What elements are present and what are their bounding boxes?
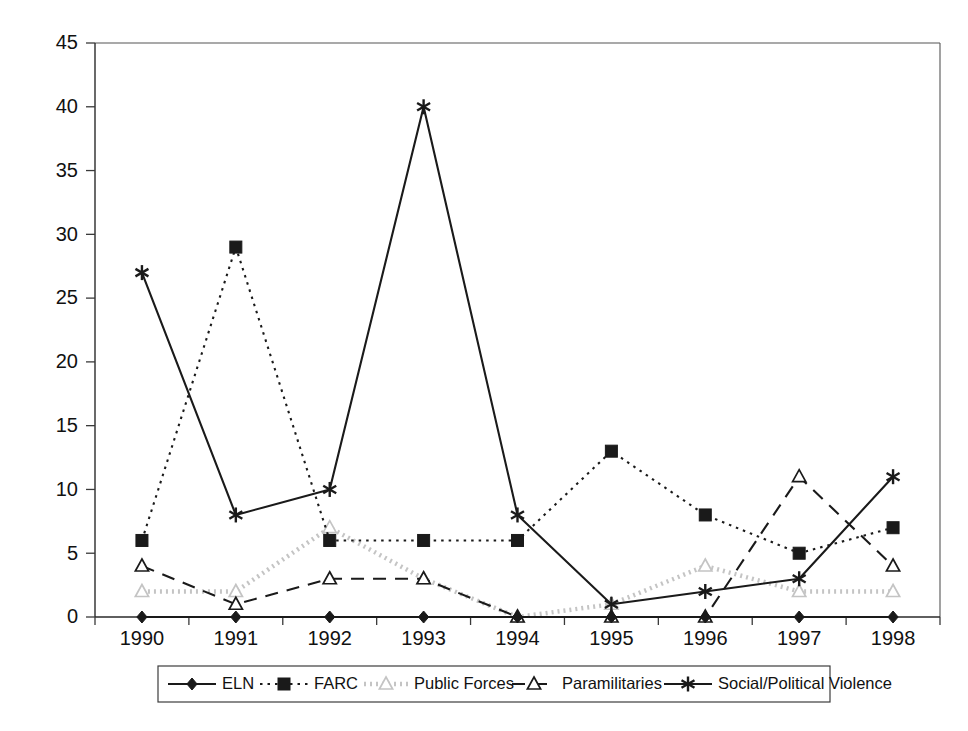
legend-item-social-political-violence[interactable]: Social/Political Violence bbox=[664, 674, 892, 692]
data-point-marker bbox=[417, 99, 430, 114]
data-point-marker bbox=[793, 470, 806, 482]
data-point-marker bbox=[323, 482, 336, 497]
data-point-marker bbox=[418, 534, 430, 546]
legend-marker-icon bbox=[187, 678, 197, 690]
legend-item-farc[interactable]: FARC bbox=[260, 674, 358, 692]
legend-label: FARC bbox=[314, 674, 358, 692]
data-point-marker bbox=[887, 522, 899, 534]
legend-marker-icon bbox=[278, 678, 290, 690]
x-tick-label: 1998 bbox=[871, 627, 916, 649]
data-point-marker bbox=[512, 534, 524, 546]
y-tick-label: 45 bbox=[56, 31, 78, 53]
data-point-marker bbox=[324, 534, 336, 546]
y-tick-label: 40 bbox=[56, 95, 78, 117]
series-eln bbox=[137, 611, 898, 623]
data-point-marker bbox=[793, 547, 805, 559]
x-tick-label: 1996 bbox=[683, 627, 728, 649]
data-point-marker bbox=[325, 611, 335, 623]
y-tick-label: 10 bbox=[56, 478, 78, 500]
data-series-group bbox=[135, 99, 899, 623]
data-point-marker bbox=[699, 509, 711, 521]
legend-item-public-forces[interactable]: Public Forces bbox=[364, 674, 514, 692]
y-tick-label: 30 bbox=[56, 223, 78, 245]
data-point-marker bbox=[886, 559, 899, 571]
y-tick-label: 15 bbox=[56, 414, 78, 436]
series-line bbox=[142, 107, 893, 604]
y-tick-label: 0 bbox=[67, 605, 78, 627]
x-tick-label: 1997 bbox=[777, 627, 822, 649]
data-point-marker bbox=[230, 241, 242, 253]
x-tick-label: 1994 bbox=[495, 627, 540, 649]
data-point-marker bbox=[229, 507, 242, 522]
y-tick-label: 20 bbox=[56, 350, 78, 372]
legend-label: Social/Political Violence bbox=[718, 674, 892, 692]
line-chart: 051015202530354045 199019911992199319941… bbox=[0, 0, 968, 731]
data-point-marker bbox=[699, 559, 712, 571]
plot-frame bbox=[95, 43, 940, 617]
data-point-marker bbox=[135, 559, 148, 571]
y-tick-label: 35 bbox=[56, 159, 78, 181]
x-tick-label: 1991 bbox=[214, 627, 259, 649]
legend-label: Public Forces bbox=[414, 674, 514, 692]
legend-item-paramilitaries[interactable]: Paramilitaries bbox=[512, 674, 662, 692]
y-tick-label: 5 bbox=[67, 542, 78, 564]
x-tick-label: 1992 bbox=[307, 627, 352, 649]
legend-label: ELN bbox=[222, 674, 254, 692]
data-point-marker bbox=[419, 611, 429, 623]
data-point-marker bbox=[135, 584, 148, 596]
data-point-marker bbox=[229, 584, 242, 596]
series-line bbox=[142, 247, 893, 553]
data-point-marker bbox=[794, 611, 804, 623]
data-point-marker bbox=[605, 445, 617, 457]
data-point-marker bbox=[137, 611, 147, 623]
data-point-marker bbox=[135, 265, 148, 280]
data-point-marker bbox=[888, 611, 898, 623]
legend-marker-icon bbox=[379, 677, 392, 689]
y-axis-ticks: 051015202530354045 bbox=[56, 31, 95, 627]
x-tick-label: 1990 bbox=[120, 627, 165, 649]
x-tick-label: 1993 bbox=[401, 627, 446, 649]
chart-legend: ELNFARCPublic ForcesParamilitariesSocial… bbox=[158, 666, 892, 702]
y-tick-label: 25 bbox=[56, 286, 78, 308]
data-point-marker bbox=[136, 534, 148, 546]
x-tick-label: 1995 bbox=[589, 627, 634, 649]
legend-item-eln[interactable]: ELN bbox=[168, 674, 254, 692]
legend-label: Paramilitaries bbox=[562, 674, 662, 692]
data-point-marker bbox=[793, 584, 806, 596]
chart-canvas: 051015202530354045 199019911992199319941… bbox=[0, 0, 968, 731]
data-point-marker bbox=[231, 611, 241, 623]
